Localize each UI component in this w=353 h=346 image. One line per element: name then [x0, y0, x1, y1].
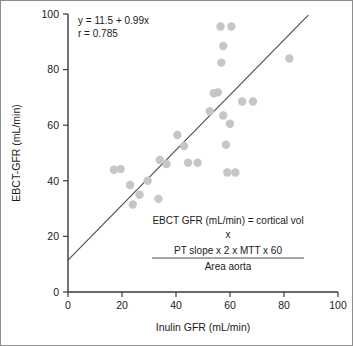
- y-axis-title: EBCT-GFR (mL/min): [10, 104, 22, 201]
- data-point: [285, 54, 293, 62]
- data-point: [216, 22, 224, 30]
- formula-numerator: PT slope x 2 x MTT x 60: [174, 245, 282, 256]
- x-tick-label: 100: [329, 299, 347, 311]
- formula-multiply-symbol: x: [226, 229, 231, 240]
- y-tick-label: 20: [47, 230, 59, 242]
- data-point: [214, 88, 222, 96]
- correlation-coefficient-label: r = 0.785: [78, 28, 118, 39]
- regression-equation-label: y = 11.5 + 0.99x: [78, 15, 149, 26]
- scatter-plot: 020406080100 020406080100 Inulin GFR (mL…: [0, 0, 353, 346]
- data-point: [173, 131, 181, 139]
- x-tick-label: 0: [65, 299, 71, 311]
- x-tick-label: 20: [116, 299, 128, 311]
- x-tick-label: 80: [278, 299, 290, 311]
- data-point: [249, 97, 257, 105]
- data-point: [219, 42, 227, 50]
- data-point: [223, 168, 231, 176]
- y-tick-label: 100: [41, 8, 59, 20]
- y-tick-label: 40: [47, 175, 59, 187]
- x-axis-ticks: 020406080100: [65, 292, 347, 311]
- data-point: [129, 200, 137, 208]
- data-point: [206, 107, 214, 115]
- data-point: [143, 177, 151, 185]
- data-point: [193, 159, 201, 167]
- data-point: [217, 58, 225, 66]
- data-point: [219, 111, 227, 119]
- x-tick-label: 40: [170, 299, 182, 311]
- data-points-group: [110, 22, 294, 208]
- data-point: [154, 195, 162, 203]
- formula-line-1: EBCT GFR (mL/min) = cortical vol: [152, 215, 303, 226]
- data-point: [227, 22, 235, 30]
- figure-container: 020406080100 020406080100 Inulin GFR (mL…: [0, 0, 353, 346]
- y-tick-label: 80: [47, 63, 59, 75]
- data-point: [238, 97, 246, 105]
- formula-denominator: Area aorta: [205, 261, 252, 272]
- data-point: [135, 191, 143, 199]
- data-point: [126, 181, 134, 189]
- y-tick-label: 0: [53, 286, 59, 298]
- data-point: [162, 160, 170, 168]
- x-axis-title: Inulin GFR (mL/min): [156, 321, 251, 333]
- data-point: [226, 120, 234, 128]
- data-point: [231, 168, 239, 176]
- data-point: [116, 165, 124, 173]
- data-point: [184, 159, 192, 167]
- x-tick-label: 60: [224, 299, 236, 311]
- data-point: [180, 142, 188, 150]
- y-tick-label: 60: [47, 119, 59, 131]
- y-axis-ticks: 020406080100: [41, 8, 68, 298]
- data-point: [222, 140, 230, 148]
